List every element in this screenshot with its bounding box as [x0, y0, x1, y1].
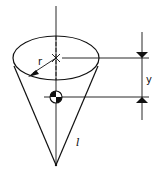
- apex-point: [55, 164, 57, 166]
- dimension-arrow-down-icon: [136, 52, 148, 58]
- slant-length-label: l: [76, 136, 80, 149]
- height-offset-label: y: [146, 74, 152, 85]
- dimension-arrow-up-icon: [136, 97, 148, 103]
- centroid-symbol-icon: [50, 91, 62, 103]
- cone-diagram: r y l: [0, 0, 161, 173]
- radius-label: r: [38, 56, 43, 67]
- cone-left-side: [14, 66, 56, 165]
- cone-right-side: [56, 66, 98, 165]
